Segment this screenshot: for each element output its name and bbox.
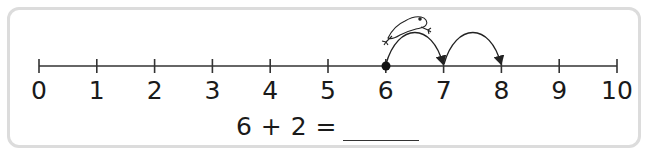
equation-text: 6 + 2 =: [236, 112, 337, 141]
tick-label-10: 10: [601, 76, 633, 105]
tick-label-1: 1: [89, 76, 105, 105]
tick-label-5: 5: [320, 76, 336, 105]
jump-arc-2: [444, 33, 501, 65]
tick-label-0: 0: [31, 76, 47, 105]
tick-label-2: 2: [147, 76, 163, 105]
tick-label-7: 7: [436, 76, 452, 105]
start-point-dot: [382, 62, 391, 71]
tick-label-4: 4: [262, 76, 278, 105]
tick-labels: 012345678910: [31, 76, 633, 105]
tick-label-3: 3: [204, 76, 220, 105]
tick-label-6: 6: [378, 76, 394, 105]
equation: 6 + 2 =: [236, 112, 419, 141]
tick-label-9: 9: [551, 76, 567, 105]
answer-blank[interactable]: [343, 116, 419, 141]
frog-icon: [382, 17, 431, 45]
tick-label-8: 8: [493, 76, 509, 105]
